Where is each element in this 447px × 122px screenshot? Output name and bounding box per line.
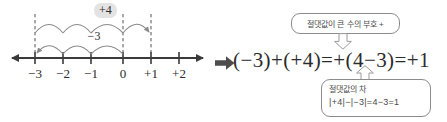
callout-difference-of-absolute-values: 절댓값의 차 |+4|−|−3|=4−3=1 [321,79,431,117]
tick-label-minus2: −2 [48,66,78,82]
callout-bottom-formula: |+4|−|−3|=4−3=1 [329,96,423,110]
callout-top-text: 절댓값이 큰 수의 부호 + [307,18,384,29]
figure-root: +4 −3 −3 −2 −1 0 +1 +2 (−3)+(+4)=+(4−3)=… [0,0,447,122]
callout-sign-of-larger-absolute-value: 절댓값이 큰 수의 부호 + [291,13,400,34]
lower-hop-arcs [37,46,123,54]
tick-label-plus2: +2 [164,66,194,82]
tick-label-minus3: −3 [20,66,50,82]
callout-bottom-text: 절댓값의 차 [329,84,423,96]
lower-hop-label: −3 [79,29,109,44]
arrow-down-icon [333,33,353,50]
number-line-svg [0,0,215,122]
tick-label-minus1: −1 [76,66,106,82]
equation-text: (−3)+(+4)=+(4−3)=+1 [233,48,430,73]
tick-label-plus1: +1 [136,66,166,82]
number-line-diagram: +4 −3 −3 −2 −1 0 +1 +2 [0,0,215,122]
upper-hop-label: +4 [94,3,117,18]
tick-label-zero: 0 [108,66,138,82]
